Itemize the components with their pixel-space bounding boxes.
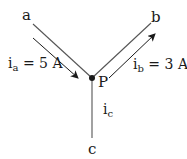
node-label-a: a (22, 6, 31, 24)
node-label-b: b (151, 8, 161, 26)
ib-value: = 3 A (144, 56, 187, 72)
junction-diagram: a b c P ia = 5 A ib = 3 A ic (0, 0, 187, 159)
current-label-ia: ia = 5 A (8, 55, 63, 73)
ic-subscript: c (107, 108, 113, 119)
ia-value: = 5 A (18, 55, 63, 71)
current-label-ib: ib = 3 A (133, 56, 187, 74)
current-label-ic: ic (103, 101, 113, 119)
node-label-c: c (88, 140, 96, 158)
junction-label-p: P (98, 73, 108, 91)
junction-dot (89, 75, 95, 81)
